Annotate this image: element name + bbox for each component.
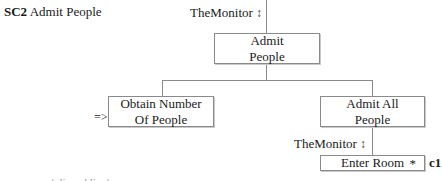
monitor-label: TheMonitor xyxy=(190,5,253,20)
input-marker: => xyxy=(94,110,108,125)
lower-monitor-annotation: TheMonitor ↕ xyxy=(294,136,366,152)
connector-top xyxy=(266,0,267,33)
node-label-line2: Of People xyxy=(135,112,187,128)
condition-label: c1 xyxy=(429,155,441,171)
node-label: Enter Room xyxy=(341,155,404,171)
connector-to-enter-room xyxy=(372,127,373,155)
node-label-line2: People xyxy=(249,49,284,65)
node-admit-people[interactable]: Admit People xyxy=(214,33,320,64)
iteration-marker: * xyxy=(410,156,417,172)
node-label-line1: Obtain Number xyxy=(120,96,201,112)
connector-root-down xyxy=(266,64,267,80)
monitor-label: TheMonitor xyxy=(294,136,357,151)
node-label-line1: Admit xyxy=(250,33,283,49)
node-label-line2: People xyxy=(355,112,390,128)
diagram-id: SC2 xyxy=(4,4,27,19)
connector-to-admit-all xyxy=(372,80,373,96)
clipped-caption: ... (clipped line) xyxy=(40,176,110,181)
connector-to-obtain xyxy=(162,80,163,96)
up-down-arrow-icon: ↕ xyxy=(360,137,366,151)
connector-horizontal xyxy=(162,80,373,81)
top-monitor-annotation: TheMonitor ↕ xyxy=(190,5,262,21)
node-obtain-number-of-people[interactable]: Obtain Number Of People xyxy=(108,96,214,127)
node-admit-all-people[interactable]: Admit All People xyxy=(320,96,425,127)
node-label-line1: Admit All xyxy=(346,96,398,112)
diagram-name: Admit People xyxy=(30,4,102,19)
up-down-arrow-icon: ↕ xyxy=(256,6,262,20)
diagram-title: SC2 Admit People xyxy=(4,4,102,20)
node-enter-room[interactable]: Enter Room * xyxy=(320,155,425,171)
